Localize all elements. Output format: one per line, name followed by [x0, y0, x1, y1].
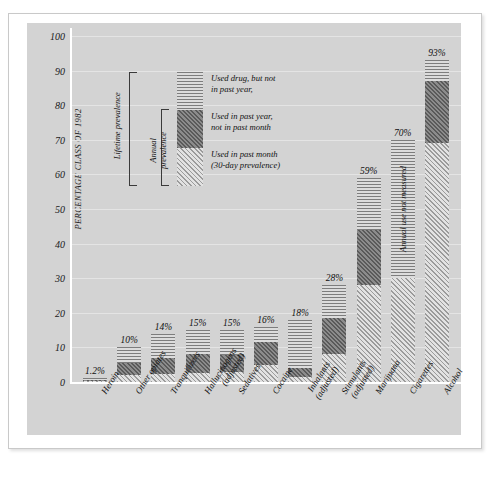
segment-lifetime [254, 327, 278, 343]
segment-past-year [322, 318, 346, 354]
chart-page: PERCENTAGE CLASS OF 1982 010203040506070… [0, 0, 497, 477]
value-label-6: 18% [291, 308, 308, 318]
value-label-1: 10% [120, 335, 137, 345]
segment-past-year [117, 363, 141, 375]
legend-label-month: Used in past month (30-day prevalence) [211, 149, 280, 170]
y-tick-label-70: 70 [9, 134, 65, 145]
segment-past-year [254, 342, 278, 364]
legend-label-annual-line1: Used in past year, [211, 111, 273, 121]
y-tick-label-10: 10 [9, 342, 65, 353]
value-label-3: 15% [189, 318, 206, 328]
legend-label-month-line2: (30-day prevalence) [211, 160, 280, 170]
legend: Used drug, but not in past year, Used in… [105, 69, 355, 189]
segment-lifetime [83, 378, 107, 380]
legend-sample-bar [177, 72, 203, 186]
value-label-5: 16% [257, 315, 274, 325]
bracket-lifetime [129, 72, 137, 186]
segment-lifetime [117, 347, 141, 363]
y-tick-label-50: 50 [9, 204, 65, 215]
value-label-10: 93% [428, 48, 445, 58]
bracket-annual-label: Annual prevalence [149, 113, 168, 189]
bracket-annual-label-line1: Annual [148, 138, 158, 163]
legend-swatch-annual [177, 110, 203, 148]
value-label-9: 70% [394, 128, 411, 138]
bar-cigarettes[interactable]: Annual use not measured70% [391, 140, 415, 382]
legend-label-annual-line2: not in past month [211, 122, 271, 132]
legend-label-lifetime: Used drug, but not in past year, [211, 73, 275, 94]
segment-past-month [425, 143, 449, 382]
value-label-8: 59% [360, 166, 377, 176]
legend-label-lifetime-line1: Used drug, but not [211, 73, 275, 83]
segment-past-year [357, 230, 381, 285]
chart-frame: PERCENTAGE CLASS OF 1982 010203040506070… [8, 13, 482, 449]
segment-lifetime [288, 320, 312, 368]
y-tick-label-60: 60 [9, 169, 65, 180]
y-axis-line [70, 28, 72, 384]
value-label-0: 1.2% [85, 366, 105, 376]
bar-marijuana[interactable]: 59% [357, 178, 381, 382]
y-tick-label-80: 80 [9, 100, 65, 111]
segment-lifetime: Annual use not measured [391, 140, 415, 278]
bracket-lifetime-label: Lifetime prevalence [113, 74, 123, 178]
legend-swatch-lifetime [177, 72, 203, 110]
segment-lifetime [186, 330, 210, 354]
segment-past-year [425, 81, 449, 143]
value-label-2: 14% [155, 322, 172, 332]
segment-lifetime [322, 285, 346, 318]
legend-swatch-month [177, 148, 203, 186]
legend-label-annual: Used in past year, not in past month [211, 111, 273, 132]
legend-label-month-line1: Used in past month [211, 149, 278, 159]
bar-other-opiates[interactable]: 10% [117, 347, 141, 382]
bracket-annual-label-line2: prevalence [157, 132, 167, 169]
value-label-4: 15% [223, 318, 240, 328]
y-tick-label-0: 0 [9, 377, 65, 388]
y-tick-label-100: 100 [9, 31, 65, 42]
bar-alcohol[interactable]: 93% [425, 60, 449, 382]
y-tick-label-20: 20 [9, 307, 65, 318]
legend-label-lifetime-line2: in past year, [211, 84, 253, 94]
y-tick-label-90: 90 [9, 65, 65, 76]
value-label-7: 28% [326, 273, 343, 283]
bar-annotation-cigarettes: Annual use not measured [398, 166, 408, 252]
segment-lifetime [425, 60, 449, 81]
gridline [71, 36, 461, 37]
y-tick-label-30: 30 [9, 273, 65, 284]
y-tick-label-40: 40 [9, 238, 65, 249]
segment-lifetime [357, 178, 381, 230]
